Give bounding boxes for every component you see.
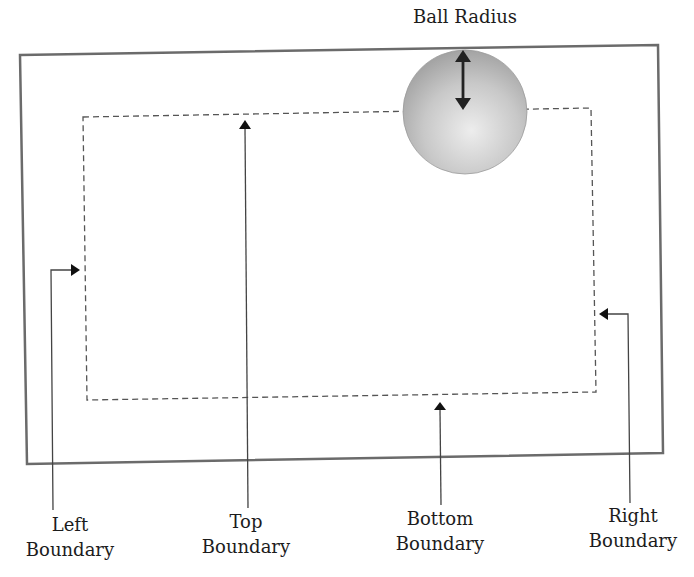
ball-radius-text: Ball Radius	[395, 4, 535, 29]
ball-radius-label: Ball Radius	[395, 4, 535, 29]
right-boundary-line2: Boundary	[563, 528, 694, 553]
boundary-diagram	[0, 0, 694, 577]
bottom-boundary-line2: Boundary	[370, 531, 510, 556]
top-boundary-arrow	[239, 120, 251, 508]
top-boundary-line1: Top	[176, 509, 316, 534]
ball	[403, 50, 527, 174]
top-boundary-label: Top Boundary	[176, 509, 316, 559]
left-boundary-arrow	[51, 264, 80, 510]
left-boundary-label: Left Boundary	[0, 512, 140, 562]
bottom-boundary-arrow	[434, 402, 446, 505]
right-boundary-label: Right Boundary	[563, 503, 694, 553]
bottom-boundary-line1: Bottom	[370, 506, 510, 531]
right-boundary-arrow	[599, 308, 630, 503]
left-boundary-line1: Left	[0, 512, 140, 537]
bottom-boundary-label: Bottom Boundary	[370, 506, 510, 556]
left-boundary-line2: Boundary	[0, 537, 140, 562]
right-boundary-line1: Right	[563, 503, 694, 528]
top-boundary-line2: Boundary	[176, 534, 316, 559]
inner-boundary-rectangle	[83, 108, 596, 400]
